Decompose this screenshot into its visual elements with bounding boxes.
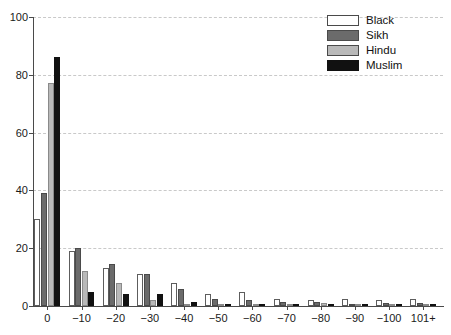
bar-chart: 020406080100 0−10−20−30−40−50−60−70−80−9…	[0, 0, 451, 335]
y-tick-label: 0	[22, 301, 28, 312]
legend-label: Sikh	[366, 30, 388, 42]
bar-muslim	[54, 57, 60, 306]
y-tick-label: 80	[16, 69, 28, 80]
bar-group	[34, 17, 60, 306]
x-tick-label: −10	[72, 313, 91, 324]
bar-black	[69, 251, 75, 306]
bar-black	[274, 299, 280, 306]
x-tick-label: −100	[377, 313, 402, 324]
bar-black	[137, 274, 143, 306]
legend-swatch-black	[327, 15, 359, 26]
legend-item-hindu: Hindu	[327, 44, 402, 57]
bar-black	[205, 294, 211, 306]
x-tick-mark	[287, 306, 288, 310]
x-tick-mark	[116, 306, 117, 310]
bar-hindu	[116, 283, 122, 306]
x-tick-mark	[82, 306, 83, 310]
x-tick-mark	[218, 306, 219, 310]
bar-group	[410, 17, 436, 306]
bar-sikh	[178, 289, 184, 306]
bar-sikh	[75, 248, 81, 306]
bar-black	[171, 283, 177, 306]
x-tick-label: −80	[311, 313, 330, 324]
x-tick-label: −50	[209, 313, 228, 324]
x-tick-mark	[150, 306, 151, 310]
x-tick-mark	[423, 306, 424, 310]
bar-black	[342, 299, 348, 306]
bar-group	[171, 17, 197, 306]
x-tick-mark	[355, 306, 356, 310]
bar-black	[34, 219, 40, 306]
bar-sikh	[109, 264, 115, 306]
bar-group	[239, 17, 265, 306]
x-tick-label: −40	[175, 313, 194, 324]
bar-group	[137, 17, 163, 306]
y-tick-label: 60	[16, 127, 28, 138]
y-tick-label: 20	[16, 243, 28, 254]
y-tick-label: 100	[10, 12, 28, 23]
bar-muslim	[157, 294, 163, 306]
bar-muslim	[123, 294, 129, 306]
bar-hindu	[48, 83, 54, 306]
x-tick-mark	[252, 306, 253, 310]
x-tick-mark	[321, 306, 322, 310]
bar-group	[274, 17, 300, 306]
x-tick-label: −70	[277, 313, 296, 324]
legend-label: Hindu	[366, 45, 396, 57]
bar-sikh	[41, 193, 47, 306]
bar-sikh	[212, 299, 218, 306]
bar-group	[103, 17, 129, 306]
legend-swatch-sikh	[327, 30, 359, 41]
legend-swatch-muslim	[327, 60, 359, 71]
x-tick-label: −60	[243, 313, 262, 324]
y-axis-line	[33, 17, 34, 306]
legend-label: Muslim	[366, 60, 402, 72]
legend-item-black: Black	[327, 14, 402, 27]
x-tick-mark	[389, 306, 390, 310]
bar-sikh	[144, 274, 150, 306]
bar-black	[103, 268, 109, 306]
legend-label: Black	[366, 15, 394, 27]
x-axis-line	[33, 306, 444, 307]
bar-black	[239, 292, 245, 306]
bar-group	[69, 17, 95, 306]
x-tick-label: 101+	[411, 313, 436, 324]
x-tick-mark	[47, 306, 48, 310]
x-tick-mark	[184, 306, 185, 310]
x-tick-label: 0	[44, 313, 50, 324]
legend-item-sikh: Sikh	[327, 29, 402, 42]
x-tick-label: −30	[141, 313, 160, 324]
bar-group	[205, 17, 231, 306]
bar-muslim	[88, 292, 94, 306]
legend-swatch-hindu	[327, 45, 359, 56]
x-tick-label: −90	[346, 313, 365, 324]
chart-legend: BlackSikhHinduMuslim	[327, 14, 402, 74]
bar-black	[410, 299, 416, 306]
bar-hindu	[82, 271, 88, 306]
x-tick-label: −20	[106, 313, 125, 324]
y-tick-label: 40	[16, 185, 28, 196]
legend-item-muslim: Muslim	[327, 59, 402, 72]
